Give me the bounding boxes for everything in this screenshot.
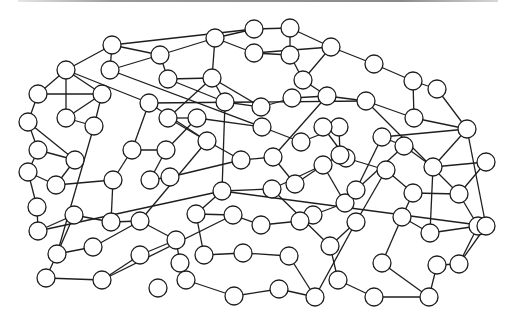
graph-node[interactable] [357, 92, 375, 110]
graph-node[interactable] [159, 70, 177, 88]
graph-node[interactable] [405, 109, 423, 127]
graph-node[interactable] [85, 117, 103, 135]
graph-node[interactable] [131, 246, 149, 264]
graph-node[interactable] [404, 184, 422, 202]
graph-node[interactable] [213, 182, 231, 200]
graph-node[interactable] [29, 222, 47, 240]
graph-node[interactable] [29, 85, 47, 103]
graph-node[interactable] [65, 206, 83, 224]
graph-node[interactable] [93, 271, 111, 289]
graph-node[interactable] [216, 93, 234, 111]
graph-node[interactable] [177, 271, 195, 289]
graph-node[interactable] [171, 254, 189, 272]
graph-node[interactable] [195, 246, 213, 264]
graph-node[interactable] [203, 69, 221, 87]
graph-node[interactable] [103, 36, 121, 54]
graph-node[interactable] [428, 80, 446, 98]
graph-node[interactable] [104, 171, 122, 189]
graph-node[interactable] [252, 98, 270, 116]
graph-node[interactable] [167, 231, 185, 249]
graph-node[interactable] [373, 128, 391, 146]
graph-node[interactable] [477, 217, 495, 235]
graph-node[interactable] [224, 206, 242, 224]
graph-node[interactable] [450, 255, 468, 273]
graph-node[interactable] [424, 158, 442, 176]
graph-node[interactable] [157, 141, 175, 159]
graph-node[interactable] [188, 109, 206, 127]
graph-node[interactable] [29, 141, 47, 159]
graph-node[interactable] [365, 288, 383, 306]
graph-node[interactable] [450, 185, 468, 203]
graph-node[interactable] [234, 244, 252, 262]
graph-edge [430, 167, 433, 233]
graph-node[interactable] [232, 151, 250, 169]
graph-node[interactable] [102, 213, 120, 231]
graph-node[interactable] [84, 238, 102, 256]
graph-canvas[interactable] [0, 0, 512, 322]
graph-node[interactable] [283, 89, 301, 107]
graph-node[interactable] [264, 148, 282, 166]
graph-node[interactable] [198, 132, 216, 150]
graph-node[interactable] [281, 19, 299, 37]
graph-node[interactable] [225, 287, 243, 305]
graph-node[interactable] [321, 237, 339, 255]
graph-node[interactable] [161, 168, 179, 186]
graph-edge [197, 118, 262, 127]
graph-node[interactable] [365, 55, 383, 73]
graph-node[interactable] [458, 120, 476, 138]
graph-node[interactable] [206, 29, 224, 47]
graph-node[interactable] [306, 288, 324, 306]
graph-node[interactable] [329, 271, 347, 289]
graph-node[interactable] [123, 141, 141, 159]
graph-node[interactable] [294, 71, 312, 89]
graph-node[interactable] [57, 61, 75, 79]
graph-node[interactable] [101, 61, 119, 79]
graph-node[interactable] [149, 279, 167, 297]
graph-node[interactable] [291, 212, 309, 230]
graph-node[interactable] [314, 118, 332, 136]
graph-node[interactable] [421, 224, 439, 242]
graph-node[interactable] [159, 109, 177, 127]
graph-node[interactable] [131, 212, 149, 230]
graph-node[interactable] [47, 176, 65, 194]
graph-node[interactable] [330, 118, 348, 136]
graph-node[interactable] [281, 46, 299, 64]
graph-node[interactable] [263, 180, 281, 198]
graph-node[interactable] [66, 151, 84, 169]
graph-node[interactable] [245, 44, 263, 62]
graph-node[interactable] [253, 118, 271, 136]
graph-node[interactable] [393, 208, 411, 226]
graph-node[interactable] [48, 245, 66, 263]
graph-node[interactable] [151, 46, 169, 64]
graph-node[interactable] [395, 137, 413, 155]
graph-node[interactable] [286, 175, 304, 193]
graph-node[interactable] [404, 72, 422, 90]
graph-node[interactable] [347, 213, 365, 231]
graph-node[interactable] [428, 256, 446, 274]
graph-node[interactable] [19, 163, 37, 181]
graph-node[interactable] [57, 109, 75, 127]
graph-edge [102, 215, 233, 280]
graph-node[interactable] [245, 20, 263, 38]
graph-node[interactable] [187, 205, 205, 223]
graph-node[interactable] [318, 87, 336, 105]
graph-node[interactable] [19, 113, 37, 131]
graph-node[interactable] [270, 280, 288, 298]
node-layer[interactable] [19, 19, 495, 306]
graph-node[interactable] [477, 153, 495, 171]
graph-node[interactable] [28, 198, 46, 216]
graph-node[interactable] [37, 269, 55, 287]
graph-node[interactable] [314, 156, 332, 174]
graph-node[interactable] [252, 216, 270, 234]
graph-node[interactable] [373, 254, 391, 272]
graph-node[interactable] [347, 181, 365, 199]
graph-node[interactable] [322, 38, 340, 56]
graph-node[interactable] [93, 85, 111, 103]
graph-node[interactable] [140, 94, 158, 112]
graph-node[interactable] [420, 288, 438, 306]
graph-node[interactable] [331, 146, 349, 164]
graph-node[interactable] [377, 161, 395, 179]
graph-node[interactable] [280, 247, 298, 265]
graph-node[interactable] [141, 171, 159, 189]
graph-node[interactable] [292, 133, 310, 151]
